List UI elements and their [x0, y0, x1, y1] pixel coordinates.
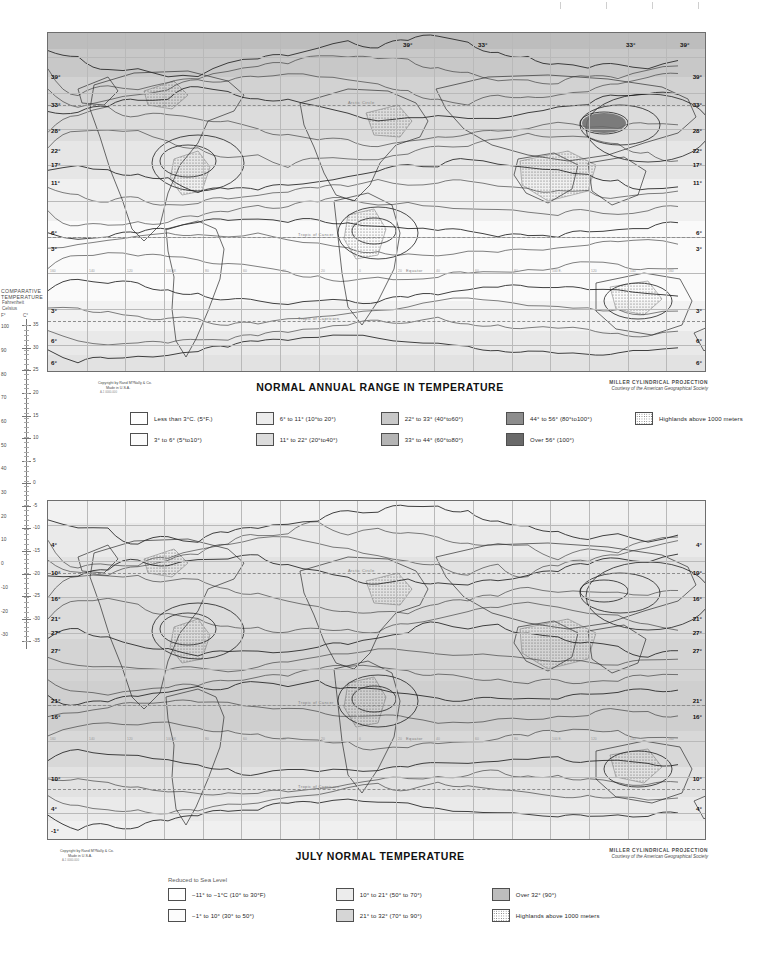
longitude-label: 160 — [668, 737, 674, 741]
parallel — [48, 57, 705, 58]
legend-item[interactable]: Highlands above 1000 meters — [635, 412, 743, 425]
legend-item[interactable]: −1° to 10° (30° to 50°) — [168, 909, 266, 922]
parallel — [48, 201, 705, 202]
legend-label: 22° to 33° (40°to60°) — [405, 416, 463, 422]
temp-celsius-label: 15 — [33, 413, 38, 418]
legend-item[interactable]: Over 32° (90°) — [492, 888, 600, 901]
map-july-normal-temperature[interactable]: Arctic CircleTropic of CancerEquatorTrop… — [47, 500, 706, 840]
temp-minor-tick — [24, 476, 29, 477]
temp-minor-tick — [24, 573, 29, 574]
longitude-label: 100 W. — [166, 737, 177, 741]
longitude-label: 120 — [127, 737, 133, 741]
legend-item[interactable]: 3° to 6° (5°to10°) — [130, 433, 213, 446]
isotherm-label-right: 27° — [693, 629, 702, 636]
map-normal-annual-range[interactable]: Arctic CircleTropic of CancerEquatorTrop… — [47, 32, 706, 372]
legend-column: −11° to −1°C (10° to 30°F)−1° to 10° (30… — [168, 888, 266, 922]
temp-celsius-label: -25 — [33, 593, 40, 598]
parallel — [48, 345, 705, 346]
longitude-label: 120 — [591, 269, 597, 273]
parallel — [48, 561, 705, 562]
map2-legend-heading: Reduced to Sea Level — [168, 877, 227, 883]
isotherm-label-left: 17° — [51, 161, 60, 168]
legend-item[interactable]: 21° to 32° (70° to 90°) — [336, 909, 422, 922]
isotherm-label-right: 4° — [696, 805, 702, 812]
temp-celsius-label: 25 — [33, 367, 38, 372]
legend-item[interactable]: Less than 3°C. (5°F.) — [130, 412, 213, 425]
temp-minor-tick — [24, 408, 29, 409]
isotherm-label-left: 6° — [51, 359, 57, 366]
legend-item[interactable]: 33° to 44° (60°to80°) — [381, 433, 463, 446]
isotherm-label-right: 21° — [693, 697, 702, 704]
isotherm-label-left: 21° — [51, 697, 60, 704]
longitude-label: 80 — [205, 737, 209, 741]
map2-credit: MILLER CYLINDRICAL PROJECTION Courtesy o… — [560, 848, 708, 860]
longitude-label: 140 — [89, 737, 95, 741]
temp-minor-tick — [24, 345, 29, 346]
temp-minor-tick — [24, 549, 29, 550]
parallel — [48, 597, 705, 598]
legend-label: −11° to −1°C (10° to 30°F) — [192, 892, 266, 898]
temp-minor-tick — [24, 330, 29, 331]
map1-title: NORMAL ANNUAL RANGE IN TEMPERATURE — [180, 381, 580, 393]
map1-projection: MILLER CYLINDRICAL PROJECTION — [609, 380, 708, 385]
legend-item[interactable]: 6° to 11° (10°to 20°) — [256, 412, 338, 425]
parallel — [48, 93, 705, 94]
isotherm-label-left: 10° — [51, 775, 60, 782]
temp-minor-tick — [24, 369, 29, 370]
longitude-label: 80 — [205, 269, 209, 273]
isotherm-label-right: 11° — [693, 179, 702, 186]
legend-label: 11° to 22° (20°to40°) — [280, 437, 338, 443]
temp-minor-tick — [24, 588, 29, 589]
legend-label: 33° to 44° (60°to80°) — [405, 437, 463, 443]
temp-celsius-label: -20 — [33, 571, 40, 576]
temp-minor-tick — [24, 500, 29, 501]
longitude-label: 120 — [127, 269, 133, 273]
legend-item[interactable]: 44° to 56° (80°to100°) — [506, 412, 592, 425]
parallel — [48, 669, 705, 670]
temp-fahrenheit-label: 30 — [1, 490, 6, 495]
legend-item[interactable]: 10° to 21° (50° to 70°) — [336, 888, 422, 901]
legend-item[interactable]: 22° to 33° (40°to60°) — [381, 412, 463, 425]
legend-item[interactable]: 11° to 22° (20°to40°) — [256, 433, 338, 446]
isotherm-label-right: 10° — [693, 775, 702, 782]
map1-copyright-code: A-1 0000-000 — [100, 390, 117, 394]
temp-minor-tick — [24, 515, 29, 516]
isotherm-label-left: -1° — [51, 827, 59, 834]
isotherm-label-right: 6° — [696, 229, 702, 236]
longitude-label: 60 — [475, 269, 479, 273]
isotherm-label-left: 6° — [51, 229, 57, 236]
isotherm-label-right: 4° — [696, 541, 702, 548]
map2-copyright: Copyright by Rand M?Nally & Co. Made in … — [60, 849, 114, 863]
isotherm-label-left: 27° — [51, 629, 60, 636]
longitude-label: 0 — [359, 269, 361, 273]
temp-minor-tick — [24, 350, 29, 351]
temp-minor-tick — [24, 495, 29, 496]
legend-swatch — [336, 909, 354, 922]
parallel — [48, 309, 705, 310]
legend-item[interactable]: Highlands above 1000 meters — [492, 909, 600, 922]
isotherm-label-right: 6° — [696, 337, 702, 344]
legend-item[interactable]: Over 56° (100°) — [506, 433, 592, 446]
legend-swatch — [336, 888, 354, 901]
temp-scale-axis: 35302520151050-5-10-15-20-25-30-35100908… — [0, 319, 52, 649]
temp-minor-tick — [24, 529, 29, 530]
longitude-label: 60 — [475, 737, 479, 741]
isotherm-label-left: 10° — [51, 569, 60, 576]
temp-minor-tick — [24, 544, 29, 545]
isotherm-label-right: 3° — [696, 307, 702, 314]
parallel — [48, 777, 705, 778]
legend-label: 44° to 56° (80°to100°) — [530, 416, 592, 422]
temp-celsius-label: 5 — [33, 458, 36, 463]
temp-minor-tick — [24, 452, 29, 453]
legend-item[interactable]: −11° to −1°C (10° to 30°F) — [168, 888, 266, 901]
temp-minor-tick — [24, 593, 29, 594]
parallel — [48, 741, 705, 742]
temp-minor-tick — [24, 456, 29, 457]
isotherm-label-left: 21° — [51, 615, 60, 622]
isotherm-label-left: 4° — [51, 805, 57, 812]
legend-label: 3° to 6° (5°to10°) — [154, 437, 202, 443]
temp-minor-tick — [24, 471, 29, 472]
isotherm-label-left: 16° — [51, 595, 60, 602]
temp-minor-tick — [24, 354, 29, 355]
map1-copyright-line2: Made in U.S.A. — [106, 386, 130, 390]
